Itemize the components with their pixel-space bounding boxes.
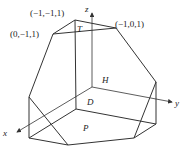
face-label-H: H (101, 75, 109, 85)
y-axis (92, 87, 172, 102)
face-label-T: T (77, 24, 83, 34)
edge (29, 109, 76, 138)
z-axis-label: z (84, 4, 89, 14)
vertex-label-left: (0,−1,1) (10, 29, 39, 39)
edge (29, 124, 156, 145)
vertex-label-right: (−1,0,1) (115, 19, 144, 29)
edge (29, 34, 53, 97)
edge (116, 28, 156, 82)
polyhedron-diagram: (−1,−1,1) (0,−1,1) (−1,0,1) z y x T H D … (0, 0, 181, 147)
face-label-D: D (86, 97, 94, 107)
face-label-P: P (82, 123, 89, 133)
edge (75, 20, 76, 109)
vertex-label-top: (−1,−1,1) (30, 8, 64, 18)
face-T-outline (53, 20, 116, 34)
y-axis-label: y (174, 98, 179, 108)
x-axis-label: x (2, 128, 7, 138)
diagram-canvas: (−1,−1,1) (0,−1,1) (−1,0,1) z y x T H D … (0, 0, 181, 147)
edge (134, 82, 156, 138)
polyhedron-edges (29, 20, 156, 145)
